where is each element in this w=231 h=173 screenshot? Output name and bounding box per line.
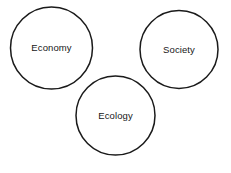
three-circles-diagram: Economy Society Ecology [0,0,231,173]
circle-node-ecology[interactable]: Ecology [76,76,155,155]
ecology-label: Ecology [98,110,133,121]
society-label: Society [163,44,195,55]
diagram-canvas: Economy Society Ecology [0,0,231,173]
circle-node-society[interactable]: Society [140,11,218,89]
economy-label: Economy [31,42,71,53]
circle-node-economy[interactable]: Economy [11,7,93,89]
